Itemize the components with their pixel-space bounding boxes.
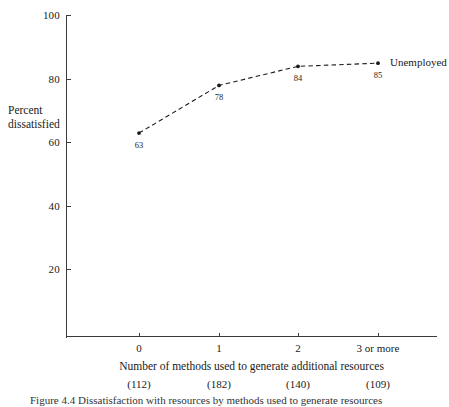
data-point-label-0: 63 — [119, 141, 159, 150]
sample-size-3: (109) — [328, 378, 428, 390]
data-point-label-2: 84 — [278, 74, 318, 83]
data-point-label-1: 78 — [199, 93, 239, 102]
data-point-2 — [296, 64, 300, 68]
series-label-unemployed: Unemployed — [390, 56, 447, 68]
data-point-label-3: 85 — [358, 71, 398, 80]
series-markers — [137, 61, 380, 135]
figure-caption: Figure 4.4 Dissatisfaction with resource… — [30, 394, 430, 407]
x-axis-title: Number of methods used to generate addit… — [66, 360, 437, 373]
data-point-3 — [376, 61, 380, 65]
series-line-unemployed — [139, 63, 378, 133]
data-point-0 — [137, 131, 141, 135]
data-point-1 — [217, 84, 221, 88]
